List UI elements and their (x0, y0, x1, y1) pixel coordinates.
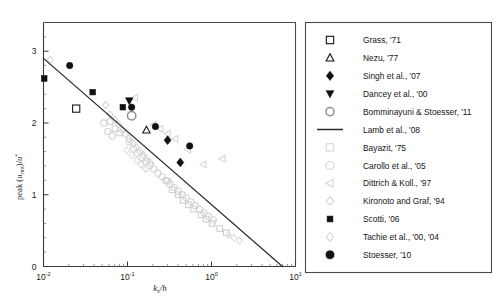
data-point (186, 143, 192, 149)
legend-label: Bomminayuni & Stoesser, '11 (363, 107, 472, 117)
data-point (152, 123, 158, 129)
svg-text:ks/h: ks/h (153, 283, 167, 294)
legend-label: Carollo et al., '05 (363, 161, 426, 171)
legend-label: Lamb et al., '08 (363, 125, 420, 135)
data-point (41, 76, 47, 82)
x-axis-label: ks/h (153, 283, 167, 294)
legend-marker-circle-filled (326, 251, 334, 259)
legend-label: Nezu, '77 (363, 53, 398, 63)
legend-label: Scotti, '06 (363, 214, 400, 224)
legend-label: Bayazit, '75 (363, 143, 406, 153)
legend-label: Singh et al., '07 (363, 71, 421, 81)
legend-label: Grass, '71 (363, 35, 401, 45)
chart-canvas: 0123 10-210-1100101 peak (urms)/u* ks/h … (0, 0, 496, 308)
chart-figure: 0123 10-210-1100101 peak (urms)/u* ks/h … (0, 0, 496, 308)
legend-label: Stoesser, '10 (363, 250, 411, 260)
y-tick-label: 2 (32, 118, 37, 128)
data-point (90, 89, 96, 95)
y-axis-label: peak (urms)/u* (14, 154, 25, 200)
y-tick-label: 3 (32, 46, 37, 56)
data-point (120, 104, 126, 110)
svg-text:peak (urms)/u*: peak (urms)/u* (14, 154, 25, 200)
y-tick-label: 0 (32, 262, 37, 272)
legend-label: Kironoto and Graf, '94 (363, 196, 445, 206)
y-tick-label: 1 (32, 190, 37, 200)
legend-label: Dittrich & Koll., '97 (363, 178, 431, 188)
figure-background (0, 0, 496, 308)
legend-label: Tachie et al., '00, '04 (363, 232, 439, 242)
data-point (66, 62, 72, 68)
data-point (128, 104, 134, 110)
legend-marker-square-filled (327, 216, 333, 222)
legend-label: Dancey et al., '00 (363, 89, 428, 99)
